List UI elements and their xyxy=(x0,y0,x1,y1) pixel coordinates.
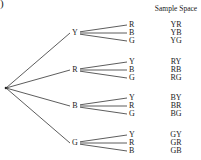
branch-node-b: B xyxy=(71,102,78,110)
branch-node-g: G xyxy=(71,139,79,147)
sample-space-outcome: GB xyxy=(170,147,181,155)
sample-space-outcome: YG xyxy=(170,37,182,45)
leaf-node: B xyxy=(129,147,134,155)
branch-node-r: R xyxy=(71,66,78,74)
branch-node-y: Y xyxy=(71,29,79,37)
leaf-node: G xyxy=(129,110,135,118)
sample-space-outcome: RG xyxy=(170,74,181,82)
leaf-node: G xyxy=(129,74,135,82)
sample-space-header: Sample Space xyxy=(155,4,197,13)
leaf-node: G xyxy=(129,37,135,45)
sample-space-outcome: BG xyxy=(170,110,181,118)
